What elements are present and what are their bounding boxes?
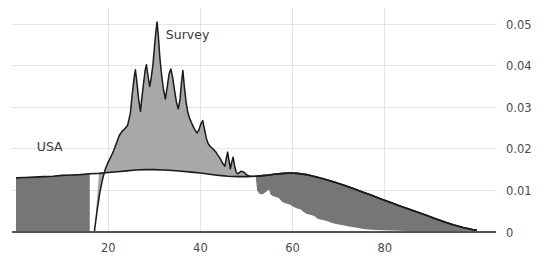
y-axis-tick-label: 0.01 [506,184,532,198]
x-axis-tick-label: 40 [193,241,208,255]
y-axis-tick-label: 0.04 [506,59,532,73]
usa-area-left-block [16,174,90,232]
y-axis-tick-label: 0 [506,226,513,240]
survey-series-label: Survey [166,27,210,42]
survey-area-fill [94,22,255,232]
x-axis-tick-label: 60 [285,241,300,255]
x-axis-tick-label: 20 [101,241,116,255]
y-axis-tick-label: 0.05 [506,18,532,32]
y-axis-tick-label: 0.02 [506,142,532,156]
chart-container: 00.010.020.030.040.0520406080 USASurvey [0,0,546,270]
area-chart: 00.010.020.030.040.0520406080 USASurvey [0,0,546,270]
usa-area-right-lobe [256,173,477,232]
y-axis-tick-label: 0.03 [506,101,532,115]
usa-series-label: USA [37,139,63,154]
series-group [16,22,477,232]
x-axis-tick-label: 80 [377,241,392,255]
